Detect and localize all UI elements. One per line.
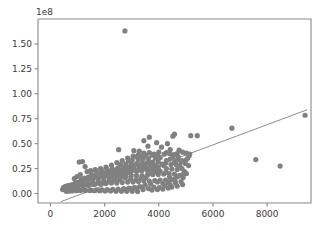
scatter-point xyxy=(166,180,171,185)
scatter-point xyxy=(163,170,168,175)
scatter-point xyxy=(134,185,139,190)
scatter-point xyxy=(188,133,193,138)
scatter-point xyxy=(147,150,152,155)
x-tick-label: 4000 xyxy=(147,209,170,219)
scatter-point xyxy=(133,177,138,182)
scatter-point xyxy=(114,160,119,165)
scatter-point xyxy=(164,150,169,155)
scatter-point xyxy=(80,159,85,164)
scatter-point xyxy=(120,158,125,163)
scatter-point xyxy=(170,134,175,139)
scatter-point xyxy=(93,167,98,172)
scatter-point xyxy=(109,163,114,168)
y-tick-label: 0.50 xyxy=(12,139,32,149)
scatter-point xyxy=(64,189,69,194)
scatter-point xyxy=(171,152,176,157)
scatter-point xyxy=(101,178,106,183)
scatter-point xyxy=(195,133,200,138)
scatter-point xyxy=(253,157,258,162)
scatter-point xyxy=(169,184,174,189)
scatter-point xyxy=(145,144,150,149)
scatter-point xyxy=(131,148,136,153)
scatter-point xyxy=(128,176,133,181)
scatter-point xyxy=(129,186,134,191)
y-tick-label: 1.00 xyxy=(12,89,32,99)
scatter-point xyxy=(183,158,188,163)
y-tick-label: 0.25 xyxy=(12,164,32,174)
scatter-point xyxy=(125,156,130,161)
scatter-point xyxy=(116,147,121,152)
scatter-point xyxy=(156,150,161,155)
scatter-point xyxy=(99,187,104,192)
scatter-point xyxy=(122,28,127,33)
scatter-point xyxy=(141,138,146,143)
scatter-point xyxy=(130,154,135,159)
scatter-point xyxy=(169,166,174,171)
scatter-point xyxy=(149,187,154,192)
scatter-point xyxy=(136,152,141,157)
scatter-point xyxy=(98,166,103,171)
scatter-plot: 1e8 02000400060008000 0.000.250.500.751.… xyxy=(0,0,326,231)
x-tick-label: 2000 xyxy=(93,209,116,219)
scatter-point xyxy=(160,181,165,186)
x-tick-label: 0 xyxy=(48,209,54,219)
scatter-point xyxy=(151,152,156,157)
scatter-point xyxy=(177,173,182,178)
scatter-point xyxy=(160,186,165,191)
x-tick-label: 8000 xyxy=(256,209,279,219)
y-axis-offset-text: 1e8 xyxy=(36,7,53,17)
scatter-point xyxy=(155,187,160,192)
scatter-point xyxy=(180,182,185,187)
scatter-point xyxy=(147,135,152,140)
y-tick-label: 1.50 xyxy=(12,39,32,49)
scatter-point xyxy=(167,174,172,179)
scatter-point xyxy=(229,126,234,131)
y-tick-label: 0.75 xyxy=(12,114,32,124)
scatter-point xyxy=(278,164,283,169)
scatter-point xyxy=(83,164,88,169)
scatter-point xyxy=(73,180,78,185)
scatter-point xyxy=(141,151,146,156)
scatter-point xyxy=(139,184,144,189)
scatter-point xyxy=(96,179,101,184)
scatter-point xyxy=(175,183,180,188)
scatter-point xyxy=(62,184,67,189)
scatter-point xyxy=(148,181,153,186)
scatter-point xyxy=(186,163,191,168)
scatter-point xyxy=(165,141,170,146)
scatter-point xyxy=(155,179,160,184)
scatter-point xyxy=(116,186,121,191)
scatter-point xyxy=(88,168,93,173)
y-offset-label: 1e8 xyxy=(36,7,53,17)
scatter-point xyxy=(110,187,115,192)
scatter-point xyxy=(172,178,177,183)
scatter-point xyxy=(154,140,159,145)
scatter-point xyxy=(302,113,307,118)
x-tick-label: 6000 xyxy=(202,209,225,219)
scatter-point xyxy=(103,165,108,170)
scatter-point xyxy=(105,187,110,192)
scatter-point xyxy=(177,163,182,168)
matplotlib-figure: 1e8 02000400060008000 0.000.250.500.751.… xyxy=(0,0,326,231)
scatter-point xyxy=(79,176,84,181)
scatter-point xyxy=(123,187,128,192)
scatter-point xyxy=(143,175,148,180)
scatter-point xyxy=(138,176,143,181)
y-tick-label: 1.25 xyxy=(12,64,32,74)
scatter-point xyxy=(159,145,164,150)
y-tick-label: 0.00 xyxy=(12,189,32,199)
